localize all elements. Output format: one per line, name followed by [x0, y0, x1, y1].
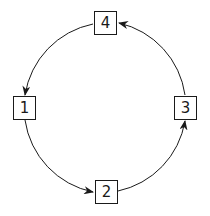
node-3: 3 [174, 96, 197, 120]
node-1: 1 [13, 96, 36, 120]
node-3-label: 3 [181, 101, 191, 116]
node-1-label: 1 [20, 101, 30, 116]
node-4: 4 [94, 11, 117, 35]
node-4-label: 4 [101, 16, 111, 31]
edge-4-to-1 [25, 24, 93, 95]
edge-1-to-2 [25, 120, 93, 192]
node-2: 2 [95, 180, 118, 204]
node-2-label: 2 [102, 185, 112, 200]
edge-3-to-4 [119, 23, 185, 95]
edge-2-to-3 [118, 121, 185, 191]
